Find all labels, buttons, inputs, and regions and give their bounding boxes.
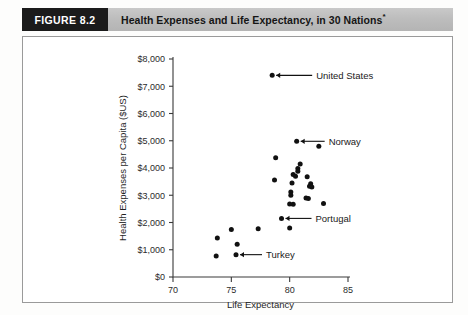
chart-frame [22,36,453,303]
figure-container: FIGURE 8.2 Health Expenses and Life Expe… [0,0,468,315]
figure-title: Health Expenses and Life Expectancy, in … [108,8,453,31]
figure-number-badge: FIGURE 8.2 [22,8,108,31]
figure-header: FIGURE 8.2 Health Expenses and Life Expe… [22,8,453,31]
figure-title-text: Health Expenses and Life Expectancy, in … [121,14,382,26]
